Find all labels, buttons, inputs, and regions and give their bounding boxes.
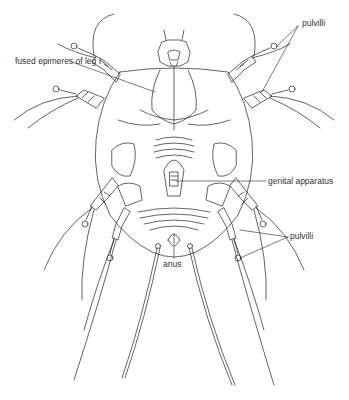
label-pulvilli-top: pulvilli xyxy=(302,19,325,28)
mite-ventral-diagram: fused epimeres of leg I pulvilli genital… xyxy=(0,0,349,400)
label-anus: anus xyxy=(163,260,181,269)
leader-lines xyxy=(72,26,298,258)
label-pulvilli-bottom: pulvilli xyxy=(290,232,313,241)
gnathosoma xyxy=(158,30,190,66)
label-fused-epimeres: fused epimeres of leg I xyxy=(15,57,101,66)
idiosoma xyxy=(95,66,252,257)
label-genital-apparatus: genital apparatus xyxy=(268,177,333,186)
